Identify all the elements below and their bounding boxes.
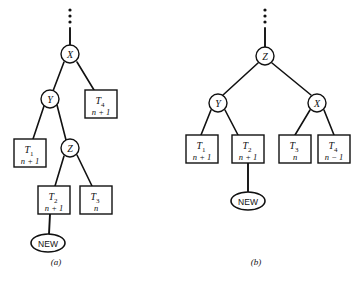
edge-y-to-t2-b [225,110,238,135]
edge-x-to-t4-a [77,62,94,90]
subtree-box-t2-a[interactable]: T2 n + 1 [38,186,70,214]
subtree-t1-a-height: n + 1 [21,156,40,166]
node-new-a-label: NEW [38,239,58,249]
node-y-a[interactable]: Y [41,90,59,108]
edge-z-to-y-b [223,63,258,95]
edge-x-to-t4-b [324,110,334,135]
node-y-b[interactable]: Y [209,94,227,112]
node-new-b[interactable]: NEW [231,192,265,210]
panel-a: X Y Z T1 n + 1 T4 n + 1 [14,8,117,267]
subtree-t4-a-height: n + 1 [92,107,111,117]
node-z-a[interactable]: Z [61,139,79,157]
edge-x-to-t3-b [295,110,310,135]
edge-z-to-t2-a [55,156,64,186]
edge-x-to-y-a [53,62,64,91]
subtree-t3-b-height: n [293,152,297,162]
caption-a: (a) [51,257,62,267]
subtree-t3-a-height: n [94,203,98,213]
subtree-box-t4-a[interactable]: T4 n + 1 [85,90,117,118]
edge-z-to-x-b [272,63,311,95]
node-z-b-label: Z [262,51,268,62]
edge-t2-to-new-a [49,214,50,234]
subtree-box-t3-b[interactable]: T3 n [279,135,311,163]
subtree-t2-b-height: n + 1 [239,152,258,162]
node-new-a[interactable]: NEW [31,234,65,252]
subtree-box-t4-b[interactable]: T4 n − 1 [318,135,350,163]
edge-z-to-t3-a [77,155,92,186]
subtree-box-t1-a[interactable]: T1 n + 1 [14,139,46,167]
node-x-b[interactable]: X [308,94,326,112]
edge-y-to-z-a [57,105,66,140]
subtree-t1-b-height: n + 1 [193,152,212,162]
node-x-a-label: X [66,49,74,60]
caption-b: (b) [251,257,262,267]
ellipsis-b [263,8,266,23]
subtree-box-t1-b[interactable]: T1 n + 1 [186,135,218,163]
edge-y-to-t1-b [201,110,211,135]
subtree-t2-a-height: n + 1 [45,203,64,213]
panel-b: Z Y X T1 n + 1 T2 n + 1 [186,8,350,267]
node-z-b[interactable]: Z [256,47,274,65]
edge-y-to-t1-a [33,106,44,139]
node-z-a-label: Z [67,143,73,154]
node-new-b-label: NEW [238,197,258,207]
ellipsis-a [68,8,71,23]
figure-container: X Y Z T1 n + 1 T4 n + 1 [0,0,360,284]
subtree-t4-b-height: n − 1 [325,152,344,162]
node-x-a[interactable]: X [61,45,79,63]
subtree-box-t3-a[interactable]: T3 n [80,186,112,214]
node-x-b-label: X [313,98,321,109]
tree-diagram-svg: X Y Z T1 n + 1 T4 n + 1 [0,0,360,284]
subtree-box-t2-b[interactable]: T2 n + 1 [232,135,264,163]
